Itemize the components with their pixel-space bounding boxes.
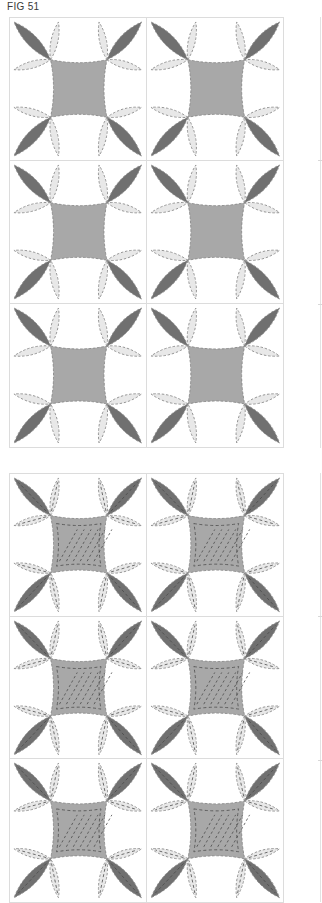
light-petal [98,117,107,156]
light-petal [244,202,279,212]
light-petal [14,250,51,260]
light-petal [187,478,196,516]
light-petal [50,859,59,898]
quilt-block [10,474,147,617]
light-petal [236,859,245,898]
quilt-block [10,304,147,447]
light-petal [187,763,196,801]
dark-petal [244,117,279,156]
block-grid [10,18,283,447]
light-petal [50,763,59,801]
light-petal [107,59,142,69]
light-petal [150,394,187,404]
light-petal [107,202,142,212]
quilt-block [10,617,147,760]
light-petal [187,859,196,898]
light-petal [98,763,107,801]
dark-petal [107,260,142,299]
light-petal [98,716,107,755]
light-petal [150,107,187,117]
light-petal [50,478,59,516]
light-petal [107,394,142,404]
light-petal [244,107,279,117]
dark-petal [150,308,187,346]
quilt-block [147,18,284,161]
light-petal [14,59,51,69]
quilt-block [10,18,147,161]
quilt-block [147,474,284,617]
light-petal [98,478,107,516]
light-petal [98,22,107,60]
light-petal [236,478,245,516]
center-square [187,203,244,261]
light-petal [150,250,187,260]
light-petal [107,250,142,260]
block-grid [10,474,283,902]
dark-petal [150,260,187,299]
dark-petal [107,404,142,443]
light-petal [50,716,59,755]
row-tick [318,616,322,617]
light-petal [187,165,196,203]
light-petal [236,22,245,60]
light-petal [98,573,107,612]
light-petal [98,165,107,203]
figure-title: FIG 51 [7,1,39,12]
dark-petal [107,308,142,346]
light-petal [50,260,59,299]
quilt-block [10,161,147,304]
dark-petal [150,117,187,156]
row-tick [318,304,322,305]
light-petal [187,22,196,60]
row-tick [318,160,322,161]
light-petal [14,394,51,404]
light-petal [150,59,187,69]
center-square [187,346,244,404]
light-petal [50,404,59,443]
light-petal [236,573,245,612]
panel-quilted-blocks [9,473,284,903]
light-petal [150,202,187,212]
light-petal [50,621,59,659]
dark-petal [107,117,142,156]
dark-petal [107,165,142,203]
dark-petal [107,22,142,60]
light-petal [236,716,245,755]
dark-petal [244,260,279,299]
light-petal [187,716,196,755]
dark-petal [14,260,51,299]
dark-petal [244,404,279,443]
center-square [51,60,107,118]
light-petal [187,621,196,659]
dark-petal [14,117,51,156]
light-petal [98,308,107,346]
center-square [51,346,107,404]
dark-petal [150,22,187,60]
light-petal [98,859,107,898]
quilt-block [147,161,284,304]
quilt-block [10,759,147,902]
light-petal [244,346,279,356]
light-petal [236,621,245,659]
light-petal [236,404,245,443]
light-petal [187,260,196,299]
dark-petal [14,22,51,60]
light-petal [50,165,59,203]
light-petal [98,260,107,299]
light-petal [50,308,59,346]
light-petal [244,250,279,260]
light-petal [187,573,196,612]
light-petal [236,165,245,203]
light-petal [187,117,196,156]
light-petal [150,346,187,356]
light-petal [98,621,107,659]
quilt-block [147,304,284,447]
row-tick [318,760,322,761]
dark-petal [244,165,279,203]
quilt-block [147,617,284,760]
light-petal [236,260,245,299]
light-petal [50,573,59,612]
light-petal [236,117,245,156]
center-square [51,203,107,261]
light-petal [14,202,51,212]
